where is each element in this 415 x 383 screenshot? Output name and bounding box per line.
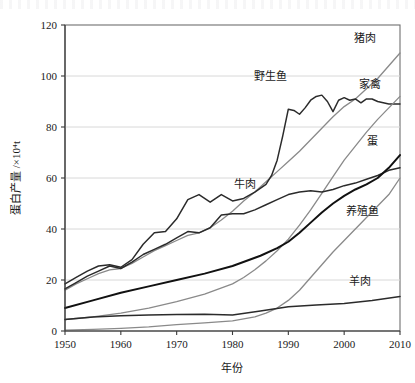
x-tick-label-1960: 1960 — [110, 338, 133, 350]
x-tick-label-2000: 2000 — [333, 338, 356, 350]
series-label-1: 野生鱼 — [254, 69, 287, 82]
protein-production-figure: 020406080100120 195019601970198019902000… — [0, 0, 415, 383]
y-tick-label-0: 0 — [52, 325, 58, 337]
x-tick-label-1980: 1980 — [222, 338, 245, 350]
series-label-2: 家禽 — [359, 77, 381, 90]
x-tick-label-1990: 1990 — [277, 338, 300, 350]
series-label-4: 牛肉 — [234, 177, 256, 190]
y-tick-label-120: 120 — [41, 19, 58, 31]
x-tick-label-1950: 1950 — [54, 338, 77, 350]
series-label-3: 蛋 — [367, 135, 378, 147]
y-tick-label-20: 20 — [46, 274, 58, 286]
x-axis-tick-labels: 1950196019701980199020002010 — [54, 338, 412, 350]
y-axis-title: 蛋白产量 /×10⁴t — [9, 141, 22, 215]
series-line-0 — [65, 53, 400, 290]
series-line-1 — [65, 95, 400, 284]
y-tick-label-80: 80 — [46, 121, 58, 133]
y-axis-tick-labels: 020406080100120 — [41, 19, 58, 337]
y-tick-label-40: 40 — [46, 223, 58, 235]
x-tick-label-2010: 2010 — [389, 338, 412, 350]
series-label-5: 养殖鱼 — [346, 204, 379, 217]
series-line-3 — [65, 168, 400, 289]
line-chart: 020406080100120 195019601970198019902000… — [0, 0, 415, 383]
gridlines — [65, 76, 400, 280]
y-tick-label-60: 60 — [46, 172, 58, 184]
series-label-6: 羊肉 — [349, 274, 371, 287]
data-series-group — [65, 53, 400, 330]
x-axis-title: 年份 — [221, 361, 243, 374]
tickmarks — [61, 25, 400, 335]
series-label-0: 猪肉 — [354, 32, 376, 44]
series-line-6 — [65, 297, 400, 320]
scan-artifact-strip — [0, 0, 415, 9]
y-tick-label-100: 100 — [41, 70, 58, 82]
series-labels-group: 猪肉野生鱼家禽蛋牛肉养殖鱼羊肉 — [234, 32, 381, 287]
x-tick-label-1970: 1970 — [166, 338, 189, 350]
